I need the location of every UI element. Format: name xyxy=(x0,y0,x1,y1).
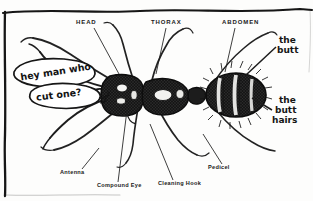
label-abdomen: ABDOMEN xyxy=(222,19,259,25)
leader-pedicel xyxy=(203,134,222,164)
leader-abdomen xyxy=(225,28,235,72)
annotation-butt-hairs-line2: butt xyxy=(275,106,296,115)
ant-thorax xyxy=(142,79,189,115)
label-head: HEAD xyxy=(76,19,97,25)
annotation-butt-hairs-line1: the xyxy=(279,96,296,105)
annotation-the-butt-line2: butt xyxy=(277,46,298,55)
leader-compound-eye xyxy=(118,110,127,182)
label-antenna: Antenna xyxy=(60,170,84,176)
label-cleaning-hook: Cleaning Hook xyxy=(158,181,201,187)
label-thorax: THORAX xyxy=(151,19,182,25)
leader-head xyxy=(94,28,119,74)
ant-abdomen xyxy=(200,61,272,129)
annotation-the-butt-line1: the xyxy=(279,36,296,45)
annotation-butt-hairs-line3: hairs xyxy=(272,116,297,125)
ant-anatomy-figure: HEAD THORAX ABDOMEN Antenna Compound Eye… xyxy=(0,0,313,201)
leader-thorax xyxy=(156,28,166,74)
leader-cleaning-hook xyxy=(150,124,173,180)
ant-pedicel xyxy=(188,88,206,105)
label-compound-eye: Compound Eye xyxy=(97,183,142,189)
leader-the-butt xyxy=(246,47,276,75)
label-pedicel: Pedicel xyxy=(208,165,230,171)
leader-antenna xyxy=(82,148,99,169)
